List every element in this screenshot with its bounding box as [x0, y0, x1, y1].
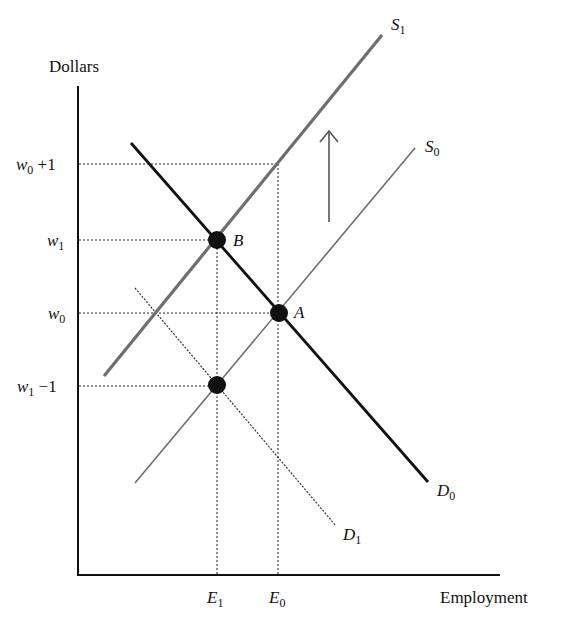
- curve-S1: [104, 35, 382, 376]
- label-point-A: A: [293, 303, 305, 322]
- x-axis-label: Employment: [440, 588, 528, 607]
- y-tick-w1: w1: [47, 231, 64, 253]
- point-B: [208, 231, 226, 249]
- y-axis-label: Dollars: [49, 57, 99, 76]
- x-tick-E0: E0: [268, 588, 285, 610]
- curve-D1: [135, 288, 336, 526]
- y-tick-w0plus1: w0 +1: [16, 155, 56, 177]
- point-A: [270, 304, 288, 322]
- label-S0: S0: [425, 137, 440, 159]
- x-tick-E1: E1: [206, 588, 223, 610]
- label-point-B: B: [233, 231, 244, 250]
- y-tick-w0: w0: [48, 304, 65, 326]
- label-S1: S1: [391, 15, 406, 37]
- shift-arrow-icon: [320, 131, 338, 222]
- label-D0: D0: [436, 481, 455, 503]
- point-E1-w1minus1: [208, 376, 226, 394]
- label-D1: D1: [342, 525, 361, 547]
- supply-demand-diagram: Dollars Employment w0 +1 w1 w0 w1 −1 E1 …: [0, 0, 562, 619]
- y-tick-w1minus1: w1 −1: [17, 377, 57, 399]
